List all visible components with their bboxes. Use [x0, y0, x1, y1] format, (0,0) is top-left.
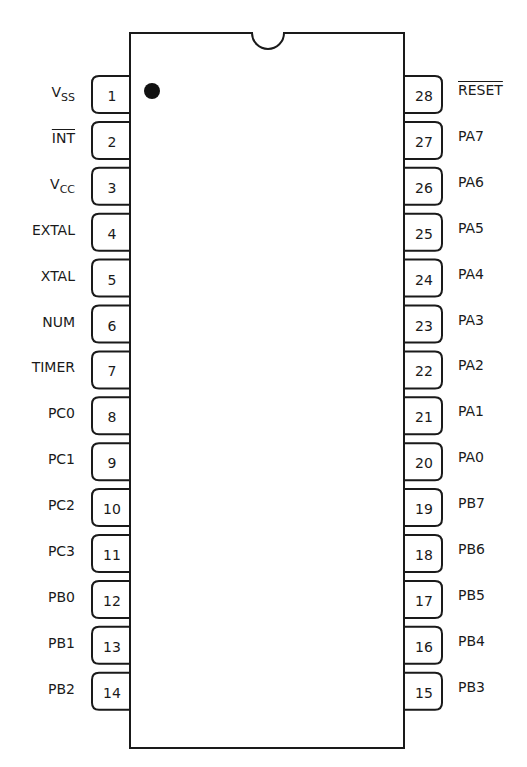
pin-label: TIMER — [0, 359, 75, 375]
pin-label: PA7 — [458, 128, 484, 144]
pin-label: PA4 — [458, 266, 484, 282]
pin-number: 25 — [409, 226, 439, 242]
pin-label-text: PB7 — [458, 495, 485, 511]
pin-label-text: V — [50, 176, 60, 192]
pin-number: 1 — [97, 88, 127, 104]
pin-number: 16 — [409, 639, 439, 655]
pin-label-text: PA0 — [458, 449, 484, 465]
pin-label-text: PB1 — [48, 635, 75, 651]
pin-label: PA3 — [458, 312, 484, 328]
pin-label: PB7 — [458, 495, 485, 511]
pin-label: PC3 — [0, 543, 75, 559]
pin-label-text: PB6 — [458, 541, 485, 557]
pin-number: 9 — [97, 455, 127, 471]
pin-label-text: PB3 — [458, 679, 485, 695]
pin-label: PA1 — [458, 403, 484, 419]
pin-label: PB0 — [0, 589, 75, 605]
pin-label: VCC — [0, 176, 75, 198]
pin-label-subscript: CC — [60, 183, 75, 196]
pin-number: 2 — [97, 134, 127, 150]
pin-number: 20 — [409, 455, 439, 471]
pin-label-text: PA5 — [458, 220, 484, 236]
pin-number: 14 — [97, 685, 127, 701]
pin-number: 11 — [97, 547, 127, 563]
pin-label: PB4 — [458, 633, 485, 649]
pin-label-text: INT — [52, 130, 75, 146]
pin-number: 8 — [97, 409, 127, 425]
pin-label: XTAL — [0, 268, 75, 284]
pin-label-text: TIMER — [32, 359, 75, 375]
pin-label-text: PC3 — [48, 543, 75, 559]
pin-label: PC0 — [0, 405, 75, 421]
pin-number: 23 — [409, 318, 439, 334]
pin-number: 21 — [409, 409, 439, 425]
pin-number: 27 — [409, 134, 439, 150]
chip-body — [130, 33, 404, 748]
pin-label-text: XTAL — [41, 268, 75, 284]
pin-number: 5 — [97, 272, 127, 288]
pin-label: EXTAL — [0, 222, 75, 238]
pin-label-text: PA6 — [458, 174, 484, 190]
pin-label-text: PB5 — [458, 587, 485, 603]
pin-label-text: EXTAL — [32, 222, 75, 238]
pin-number: 17 — [409, 593, 439, 609]
pin-label: PB2 — [0, 681, 75, 697]
pin-number: 28 — [409, 88, 439, 104]
pin-label: PC2 — [0, 497, 75, 513]
pin-label: PB6 — [458, 541, 485, 557]
pin-number: 24 — [409, 272, 439, 288]
pin-label: PB1 — [0, 635, 75, 651]
pin-label: PB3 — [458, 679, 485, 695]
pin-label: PC1 — [0, 451, 75, 467]
pin-label: PA0 — [458, 449, 484, 465]
pin-label-text: PB0 — [48, 589, 75, 605]
pin-label-text: PC1 — [48, 451, 75, 467]
pin-label-text: PC0 — [48, 405, 75, 421]
pin-number: 26 — [409, 180, 439, 196]
pin-number: 15 — [409, 685, 439, 701]
pin-number: 13 — [97, 639, 127, 655]
pin-label-text: PA3 — [458, 312, 484, 328]
pin-label: PB5 — [458, 587, 485, 603]
pin-label: INT — [0, 130, 75, 146]
pin-label-subscript: SS — [61, 91, 75, 104]
pin-label: RESET — [458, 82, 503, 98]
pin-number: 4 — [97, 226, 127, 242]
pin-label: PA6 — [458, 174, 484, 190]
pin-label-text: NUM — [42, 314, 75, 330]
pin-number: 6 — [97, 318, 127, 334]
pin-number: 7 — [97, 363, 127, 379]
pin-label-text: PB2 — [48, 681, 75, 697]
pin-number: 19 — [409, 501, 439, 517]
pin1-indicator-dot — [144, 83, 160, 99]
pin-label-text: PA2 — [458, 357, 484, 373]
pin-number: 3 — [97, 180, 127, 196]
pin-label: NUM — [0, 314, 75, 330]
pin-label-text: RESET — [458, 82, 503, 98]
pin-label: PA2 — [458, 357, 484, 373]
pin-label-text: PB4 — [458, 633, 485, 649]
pin-number: 22 — [409, 363, 439, 379]
pin-number: 10 — [97, 501, 127, 517]
pin-label-text: PA7 — [458, 128, 484, 144]
pin-label-text: PA1 — [458, 403, 484, 419]
pin-label-text: PA4 — [458, 266, 484, 282]
pin-number: 18 — [409, 547, 439, 563]
pin-number: 12 — [97, 593, 127, 609]
pin-label-text: PC2 — [48, 497, 75, 513]
pin-label: PA5 — [458, 220, 484, 236]
chip-outline — [0, 0, 527, 767]
pin-label: VSS — [0, 84, 75, 106]
pin-label-text: V — [51, 84, 61, 100]
